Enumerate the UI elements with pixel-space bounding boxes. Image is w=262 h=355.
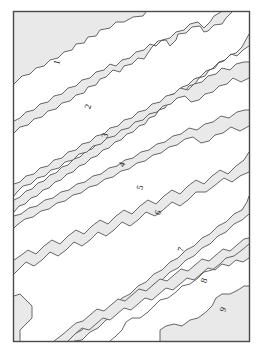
contour-figure: 1 2 3 4 5 6 7 8 9 bbox=[0, 0, 262, 355]
contour-map-canvas bbox=[0, 0, 262, 355]
